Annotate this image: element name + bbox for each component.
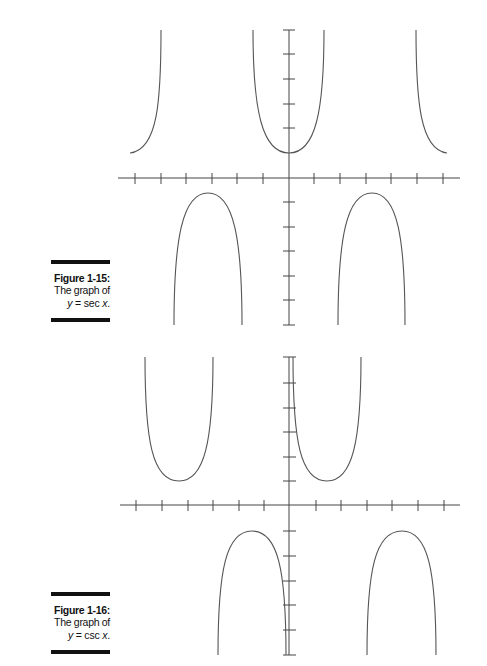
figure-caption-1-16: Figure 1-16: The graph of y = csc x.	[51, 592, 110, 654]
caption-bar-bottom	[51, 650, 110, 654]
csc-graph	[0, 0, 487, 666]
figure-label: Figure 1-16:	[51, 604, 110, 616]
eq-period: .	[107, 629, 110, 641]
csc-branch-lower-right	[367, 531, 436, 655]
csc-branch-upper-left	[145, 357, 213, 481]
caption-equation: y = csc x.	[51, 629, 110, 642]
csc-branch-lower-left	[218, 531, 286, 655]
caption-bar-top	[51, 592, 110, 596]
eq-function: = csc	[73, 629, 102, 641]
csc-branch-upper-right	[293, 357, 361, 481]
caption-text: The graph of	[51, 616, 110, 629]
